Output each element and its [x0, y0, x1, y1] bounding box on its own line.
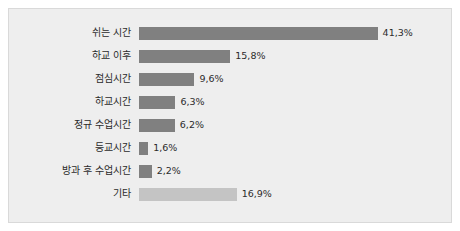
- bar: [139, 188, 237, 201]
- bar: [139, 165, 152, 178]
- bar: [139, 50, 230, 63]
- bar-track: 16,9%: [139, 184, 445, 204]
- category-label: 하교 이후: [15, 50, 139, 62]
- bar-row: 하교 이후 15,8%: [15, 46, 445, 66]
- bar: [139, 73, 194, 86]
- bar-track: 41,3%: [139, 23, 445, 43]
- bar-value-label: 2,2%: [157, 165, 181, 177]
- bar-value-label: 6,3%: [180, 96, 204, 108]
- category-label: 쉬는 시간: [15, 27, 139, 39]
- bar-row: 하교시간 6,3%: [15, 92, 445, 112]
- category-label: 기타: [15, 188, 139, 200]
- category-label: 등교시간: [15, 142, 139, 154]
- bar: [139, 119, 175, 132]
- bar-track: 9,6%: [139, 69, 445, 89]
- bar: [139, 142, 148, 155]
- bar-value-label: 6,2%: [180, 119, 204, 131]
- bar-track: 2,2%: [139, 161, 445, 181]
- bar-row: 쉬는 시간 41,3%: [15, 23, 445, 43]
- bar-chart-plot-area: 쉬는 시간 41,3% 하교 이후 15,8% 점심시간 9,6% 하교시간: [9, 9, 451, 222]
- bar-value-label: 9,6%: [199, 73, 223, 85]
- bar: [139, 96, 175, 109]
- bar-track: 6,2%: [139, 115, 445, 135]
- category-label: 정규 수업시간: [15, 119, 139, 131]
- bar-value-label: 41,3%: [383, 27, 413, 39]
- category-label: 방과 후 수업시간: [15, 165, 139, 177]
- bar-value-label: 15,8%: [235, 50, 265, 62]
- bar-track: 6,3%: [139, 92, 445, 112]
- bar-row: 등교시간 1,6%: [15, 138, 445, 158]
- bar-track: 1,6%: [139, 138, 445, 158]
- bar-track: 15,8%: [139, 46, 445, 66]
- bar: [139, 27, 378, 40]
- bar-row: 정규 수업시간 6,2%: [15, 115, 445, 135]
- bar-row: 방과 후 수업시간 2,2%: [15, 161, 445, 181]
- category-label: 점심시간: [15, 73, 139, 85]
- bar-value-label: 16,9%: [242, 188, 272, 200]
- category-label: 하교시간: [15, 96, 139, 108]
- bar-value-label: 1,6%: [153, 142, 177, 154]
- bar-row: 점심시간 9,6%: [15, 69, 445, 89]
- chart-frame: 쉬는 시간 41,3% 하교 이후 15,8% 점심시간 9,6% 하교시간: [8, 8, 452, 223]
- bar-row: 기타 16,9%: [15, 184, 445, 204]
